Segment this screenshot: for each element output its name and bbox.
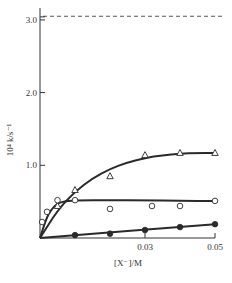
open-triangle-marker — [142, 152, 149, 158]
axes — [40, 8, 215, 238]
filled-circle-marker — [142, 227, 148, 233]
open-circle-marker — [44, 209, 50, 215]
y-tick-label: 1.0 — [26, 160, 38, 170]
axis-labels: 1.02.03.00.030.05[X⁻]/M10⁴ k/s⁻¹ — [5, 15, 223, 268]
x-tick-label: 0.05 — [207, 242, 223, 252]
y-tick-label: 2.0 — [26, 88, 38, 98]
open-circle-marker — [55, 197, 61, 203]
fit-curves — [40, 153, 215, 238]
open-triangle-marker — [177, 149, 184, 155]
kinetics-plot: 1.02.03.00.030.05[X⁻]/M10⁴ k/s⁻¹ — [0, 0, 232, 283]
y-axis-title: 10⁴ k/s⁻¹ — [5, 123, 15, 156]
open-circle-marker — [72, 197, 78, 203]
open-circle-marker — [177, 203, 183, 209]
open-circle-marker — [107, 206, 113, 212]
open-circle-marker — [212, 198, 218, 204]
open-circle-marker — [39, 219, 45, 225]
open-circle-marker — [149, 203, 155, 209]
open-triangle-fit-curve — [40, 153, 215, 238]
filled-circle-marker — [72, 232, 78, 238]
filled-circle-fit-curve — [40, 224, 215, 238]
y-tick-label: 3.0 — [26, 15, 38, 25]
x-axis-title: [X⁻]/M — [114, 258, 142, 268]
x-tick-label: 0.03 — [137, 242, 153, 252]
filled-circle-marker — [212, 221, 218, 227]
filled-circle-marker — [107, 231, 113, 237]
open-triangle-marker — [107, 173, 114, 179]
open-circle-fit-curve — [40, 200, 215, 238]
filled-circle-marker — [177, 224, 183, 230]
